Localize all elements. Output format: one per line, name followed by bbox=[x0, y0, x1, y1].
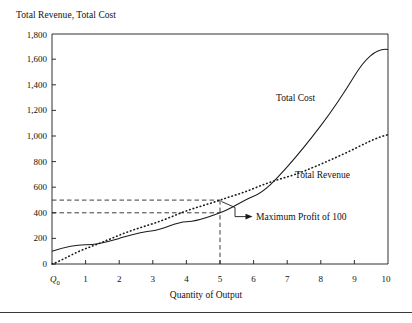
y-tick-label: 200 bbox=[34, 233, 48, 243]
y-axis-tick-labels: 0 200 400 600 800 1,000 1,200 1,400 1,60… bbox=[27, 30, 48, 269]
x-tick-label: 8 bbox=[319, 274, 324, 284]
x-tick-label: 10 bbox=[382, 274, 392, 284]
total-revenue-curve bbox=[52, 135, 388, 264]
y-tick-label: 1,800 bbox=[27, 30, 48, 40]
guide-lines bbox=[52, 200, 220, 264]
chart-plot: 0 200 400 600 800 1,000 1,200 1,400 1,60… bbox=[0, 0, 412, 323]
x-tick-label: 1 bbox=[83, 274, 88, 284]
q0-subscript: 0 bbox=[57, 279, 61, 286]
x-axis-tick-labels: Q0 1 2 3 4 5 6 7 8 9 10 bbox=[50, 274, 391, 286]
x-tick-label: 6 bbox=[251, 274, 256, 284]
x-tick-label: 3 bbox=[151, 274, 156, 284]
max-profit-label: Maximum Profit of 100 bbox=[256, 212, 347, 222]
y-tick-label: 1,400 bbox=[27, 80, 48, 90]
y-tick-label: 1,000 bbox=[27, 131, 48, 141]
max-profit-annotation: Maximum Profit of 100 bbox=[222, 202, 347, 223]
x-tick-label: 5 bbox=[218, 274, 223, 284]
x-tick-label: 2 bbox=[117, 274, 122, 284]
footer-divider bbox=[0, 312, 412, 313]
y-axis-ticks bbox=[52, 59, 56, 264]
y-tick-label: 400 bbox=[34, 208, 48, 218]
total-revenue-label: Total Revenue bbox=[295, 170, 350, 180]
x-tick-label: 7 bbox=[285, 274, 290, 284]
plot-frame bbox=[52, 34, 388, 264]
x-tick-label-q0: Q0 bbox=[50, 274, 61, 286]
x-axis-title: Quantity of Output bbox=[0, 290, 412, 300]
y-tick-label: 600 bbox=[34, 182, 48, 192]
y-tick-label: 1,600 bbox=[27, 54, 48, 64]
y-tick-label: 800 bbox=[34, 157, 48, 167]
x-tick-label: 9 bbox=[352, 274, 357, 284]
arrowhead-icon bbox=[246, 214, 253, 220]
total-cost-label: Total Cost bbox=[276, 93, 316, 103]
y-tick-label: 1,200 bbox=[27, 105, 48, 115]
y-tick-label: 0 bbox=[43, 259, 48, 269]
x-tick-label: 4 bbox=[184, 274, 189, 284]
figure-container: Total Revenue, Total Cost 0 200 400 600 … bbox=[0, 0, 412, 323]
